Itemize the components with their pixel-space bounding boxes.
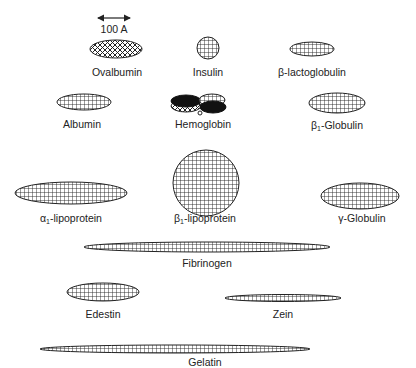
label-gelatin: Gelatin: [188, 356, 221, 368]
scale-bar-label: 100 A: [101, 23, 128, 35]
label-ovalbumin: Ovalbumin: [92, 66, 142, 78]
beta1-globulin-shape: [309, 93, 365, 113]
gelatin-shape: [40, 345, 310, 353]
beta-lactoglobulin-shape: [290, 42, 334, 56]
label-beta1-globulin: β1-Globulin: [311, 119, 363, 135]
ovalbumin-shape: [90, 40, 142, 58]
zein-shape: [225, 295, 341, 302]
gamma-globulin-shape: [321, 183, 399, 209]
label-alpha1-lipoprotein: α1-lipoprotein: [40, 212, 102, 228]
label-edestin: Edestin: [85, 308, 120, 320]
label-hemoglobin: Hemoglobin: [175, 118, 231, 130]
insulin-shape: [197, 37, 219, 59]
label-insulin: Insulin: [193, 66, 223, 78]
label-gamma-globulin: γ-Globulin: [338, 212, 385, 224]
protein-shapes-diagram: [0, 0, 416, 368]
label-beta1-lipoprotein: β1-lipoprotein: [174, 212, 236, 228]
alpha1-lipoprotein-shape: [15, 182, 127, 204]
label-zein: Zein: [273, 308, 293, 320]
label-fibrinogen: Fibrinogen: [182, 257, 232, 269]
edestin-shape: [67, 283, 139, 301]
albumin-shape: [57, 94, 111, 110]
label-beta-lactoglobulin: β-lactoglobulin: [278, 66, 346, 78]
label-albumin: Albumin: [63, 118, 101, 130]
beta1-lipoprotein-shape: [173, 150, 239, 216]
hemoglobin-shape: [171, 94, 226, 115]
fibrinogen-shape: [84, 242, 330, 252]
